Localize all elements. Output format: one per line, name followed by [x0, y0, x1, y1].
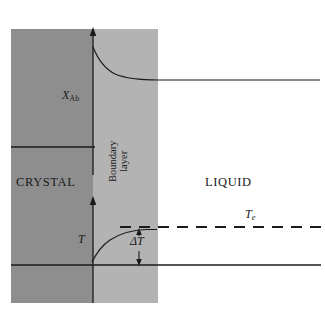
concentration-axis-label: XAb [62, 89, 80, 103]
liquid-region-label: LIQUID [205, 176, 252, 189]
undercooling-temperature-symbol: T [137, 234, 144, 248]
boundary-layer-region-label: Boundary layer [108, 141, 129, 182]
undercooling-delta-symbol: Δ [130, 234, 137, 248]
diagram-canvas [0, 0, 325, 316]
crystal-region-fill [11, 29, 93, 303]
undercooling-label: ΔT [130, 235, 144, 247]
concentration-axis-subscript: Ab [69, 94, 79, 103]
boundary-layer-label-line-1: Boundary [108, 141, 119, 182]
boundary-layer-label-line-2: layer [119, 141, 130, 182]
crystal-growth-boundary-layer-diagram: CRYSTAL LIQUID Boundary layer XAb Te ΔT … [0, 0, 325, 316]
equilibrium-temperature-subscript: e [252, 212, 256, 222]
temperature-axis-label: T [78, 233, 85, 245]
crystal-region-label: CRYSTAL [16, 176, 75, 189]
equilibrium-temperature-label: Te [245, 208, 255, 222]
equilibrium-temperature-symbol: T [245, 207, 252, 221]
